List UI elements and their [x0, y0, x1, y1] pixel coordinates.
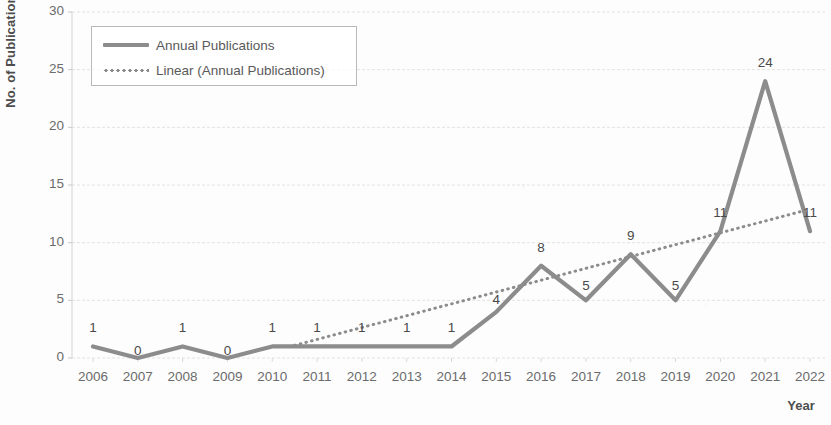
x-tick-label: 2021	[742, 369, 788, 384]
x-tick-label: 2013	[384, 369, 430, 384]
x-tick-label: 2019	[653, 369, 699, 384]
data-point-label: 11	[705, 205, 735, 220]
legend-item-linear-trend: Linear (Annual Publications)	[103, 60, 325, 80]
data-point-label: 1	[302, 320, 332, 335]
x-tick-label: 2011	[294, 369, 340, 384]
x-tick-label: 2015	[473, 369, 519, 384]
y-tick-label: 10	[30, 234, 64, 249]
y-tick-label: 20	[30, 118, 64, 133]
data-point-label: 1	[78, 320, 108, 335]
legend-swatch-dotted-line-icon	[103, 63, 149, 77]
data-point-label: 0	[123, 343, 153, 358]
chart-legend: Annual Publications Linear (Annual Publi…	[91, 26, 357, 86]
data-point-label: 8	[526, 240, 556, 255]
x-tick-label: 2020	[697, 369, 743, 384]
data-point-label: 1	[257, 320, 287, 335]
data-point-label: 1	[347, 320, 377, 335]
x-tick-label: 2022	[787, 369, 831, 384]
legend-label-linear-trend: Linear (Annual Publications)	[156, 63, 325, 78]
x-tick-label: 2012	[339, 369, 385, 384]
data-point-label: 0	[212, 343, 242, 358]
data-point-label: 4	[481, 292, 511, 307]
y-tick-label: 30	[30, 3, 64, 18]
y-axis-title: No. of Publications	[2, 0, 20, 131]
data-point-label: 24	[750, 55, 780, 70]
data-point-label: 1	[392, 320, 422, 335]
y-tick-label: 5	[30, 291, 64, 306]
x-tick-label: 2007	[115, 369, 161, 384]
data-point-label: 1	[168, 320, 198, 335]
x-tick-label: 2018	[608, 369, 654, 384]
x-tick-label: 2008	[160, 369, 206, 384]
y-tick-label: 15	[30, 176, 64, 191]
x-tick-label: 2016	[518, 369, 564, 384]
x-tick-label: 2006	[70, 369, 116, 384]
chart-container: 051015202530 200620072008200920102011201…	[0, 0, 831, 425]
x-axis-title: Year	[787, 398, 815, 413]
data-point-label: 1	[437, 320, 467, 335]
data-point-label: 5	[661, 278, 691, 293]
x-tick-label: 2009	[204, 369, 250, 384]
data-point-label: 5	[571, 278, 601, 293]
y-tick-label: 25	[30, 61, 64, 76]
x-tick-label: 2017	[563, 369, 609, 384]
series-annual-publications	[93, 81, 810, 358]
y-tick-label: 0	[30, 349, 64, 364]
data-point-label: 11	[795, 205, 825, 220]
data-point-label: 9	[616, 228, 646, 243]
x-tick-label: 2010	[249, 369, 295, 384]
legend-item-annual-publications: Annual Publications	[103, 35, 275, 55]
x-tick-label: 2014	[429, 369, 475, 384]
legend-swatch-solid-line-icon	[103, 38, 149, 52]
legend-label-annual-publications: Annual Publications	[156, 38, 275, 53]
